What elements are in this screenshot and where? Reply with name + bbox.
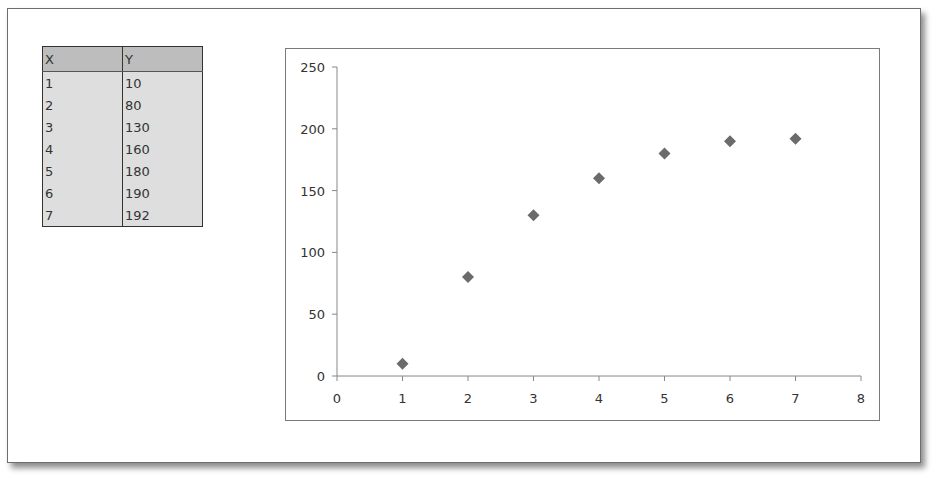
cell-x[interactable]: 2 <box>43 94 123 116</box>
data-table: X Y 110 280 3130 4160 5180 6190 7192 <box>42 46 203 227</box>
x-tick-label: 0 <box>333 391 341 406</box>
cell-x[interactable]: 1 <box>43 72 123 95</box>
cell-y[interactable]: 130 <box>123 116 203 138</box>
data-point-diamond-icon[interactable] <box>790 133 802 145</box>
y-tick-label: 50 <box>308 307 325 322</box>
cell-y[interactable]: 80 <box>123 94 203 116</box>
header-x[interactable]: X <box>43 47 123 72</box>
cell-y[interactable]: 190 <box>123 182 203 204</box>
data-point-diamond-icon[interactable] <box>397 358 409 370</box>
cell-y[interactable]: 192 <box>123 204 203 227</box>
cell-x[interactable]: 7 <box>43 204 123 227</box>
table-row: 7192 <box>43 204 203 227</box>
cell-x[interactable]: 3 <box>43 116 123 138</box>
data-point-diamond-icon[interactable] <box>724 135 736 147</box>
x-tick-label: 6 <box>726 391 734 406</box>
table-row: 5180 <box>43 160 203 182</box>
data-point-diamond-icon[interactable] <box>593 172 605 184</box>
y-tick-label: 150 <box>300 184 325 199</box>
data-point-diamond-icon[interactable] <box>462 271 474 283</box>
header-y[interactable]: Y <box>123 47 203 72</box>
table-header-row: X Y <box>43 47 203 72</box>
table-row: 6190 <box>43 182 203 204</box>
x-tick-label: 7 <box>791 391 799 406</box>
x-tick-label: 1 <box>398 391 406 406</box>
y-tick-label: 0 <box>317 369 325 384</box>
table-row: 4160 <box>43 138 203 160</box>
data-point-diamond-icon[interactable] <box>528 209 540 221</box>
table-row: 3130 <box>43 116 203 138</box>
cell-x[interactable]: 5 <box>43 160 123 182</box>
scatter-chart[interactable]: 050100150200250012345678 <box>285 48 880 421</box>
cell-x[interactable]: 4 <box>43 138 123 160</box>
chart-plot-area: 050100150200250012345678 <box>286 49 879 420</box>
cell-y[interactable]: 180 <box>123 160 203 182</box>
y-tick-label: 200 <box>300 122 325 137</box>
data-point-diamond-icon[interactable] <box>659 148 671 160</box>
x-tick-label: 3 <box>529 391 537 406</box>
y-tick-label: 250 <box>300 60 325 75</box>
table-row: 110 <box>43 72 203 95</box>
cell-y[interactable]: 10 <box>123 72 203 95</box>
cell-y[interactable]: 160 <box>123 138 203 160</box>
x-tick-label: 4 <box>595 391 603 406</box>
y-tick-label: 100 <box>300 245 325 260</box>
x-tick-label: 2 <box>464 391 472 406</box>
cell-x[interactable]: 6 <box>43 182 123 204</box>
table-row: 280 <box>43 94 203 116</box>
x-tick-label: 5 <box>660 391 668 406</box>
x-tick-label: 8 <box>857 391 865 406</box>
